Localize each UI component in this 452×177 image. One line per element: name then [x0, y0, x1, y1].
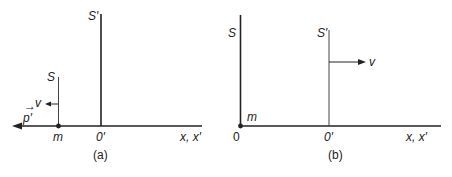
velocity-label: v: [35, 96, 42, 110]
origin-prime-label: 0′: [96, 130, 106, 144]
axis-label: x, x′: [179, 130, 202, 144]
velocity-label: v: [369, 55, 376, 69]
frame-s-prime-label: S′: [88, 9, 99, 23]
panel-b: S S′ v m 0 0′ x, x′ (b): [228, 15, 441, 162]
velocity-arrow-icon: [329, 59, 366, 65]
momentum-arrow-icon: [12, 123, 58, 130]
panel-a: S′ S v p′ → m 0′ x, x′ (a): [12, 9, 202, 162]
mass-point: [56, 124, 61, 129]
origin-label: 0: [233, 130, 240, 144]
relativity-frames-figure: S′ S v p′ → m 0′ x, x′ (a) S S′: [0, 0, 452, 177]
caption-b: (b): [328, 148, 343, 162]
mass-point: [238, 124, 243, 129]
frame-s-prime-label: S′: [317, 26, 328, 40]
mass-label: m: [247, 110, 257, 124]
vector-arrow-mark: →: [24, 99, 36, 113]
momentum-label: p′: [22, 111, 33, 125]
caption-a: (a): [93, 148, 108, 162]
velocity-arrow-icon: [45, 102, 58, 107]
frame-s-label: S: [228, 26, 236, 40]
frame-s-label: S: [47, 70, 55, 84]
axis-label: x, x′: [405, 130, 428, 144]
origin-prime-label: 0′: [324, 130, 334, 144]
mass-label: m: [53, 130, 63, 144]
